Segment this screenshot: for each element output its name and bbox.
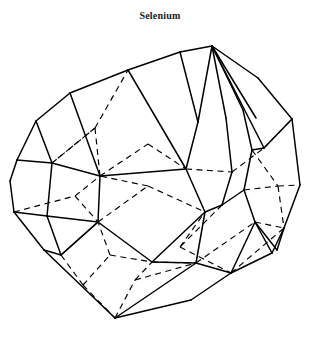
figure-container: Selenium — [0, 0, 320, 349]
crystal-body-fill — [10, 46, 300, 318]
crystal-faces — [10, 46, 300, 318]
crystal-visible-edge — [152, 262, 196, 263]
crystal-diagram — [0, 0, 320, 349]
